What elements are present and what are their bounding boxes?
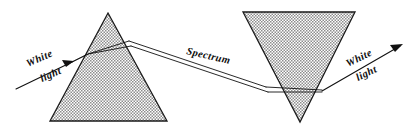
outgoing-white-label-line2: light <box>354 63 379 83</box>
figure-canvas: White light Spectrum White light <box>0 0 410 132</box>
spectrum-label: Spectrum <box>186 45 232 66</box>
prism-dispersion-figure: White light Spectrum White light <box>0 0 410 132</box>
incoming-white-label-line1: White <box>24 48 54 69</box>
right-prism <box>243 12 355 122</box>
left-prism <box>50 13 167 121</box>
